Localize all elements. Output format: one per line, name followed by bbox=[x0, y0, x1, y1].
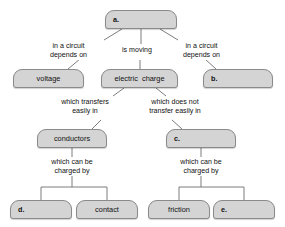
node-label-voltage: voltage bbox=[14, 75, 83, 82]
connector-voltage-stub bbox=[68, 59, 80, 69]
node-label-d: d. bbox=[11, 206, 71, 213]
connector-a-to-b bbox=[160, 29, 178, 40]
node-c[interactable]: c. bbox=[166, 129, 236, 148]
node-conductors[interactable]: conductors bbox=[37, 129, 107, 148]
connector-charge-to-conductors bbox=[113, 88, 124, 96]
label-a-voltage: in a circuit depends on bbox=[41, 42, 96, 60]
node-a[interactable]: a. bbox=[105, 10, 177, 29]
label-a-b: in a circuit depends on bbox=[174, 42, 229, 60]
connector-c-stub bbox=[172, 120, 182, 129]
node-contact[interactable]: contact bbox=[76, 200, 138, 219]
label-charge-conductors: which transfers easily in bbox=[54, 98, 116, 116]
label-conductors-charged: which can be charged by bbox=[43, 158, 101, 176]
node-voltage[interactable]: voltage bbox=[13, 69, 84, 88]
label-a-electric-charge: is moving bbox=[113, 46, 161, 55]
node-label-conductors: conductors bbox=[38, 135, 106, 142]
node-label-friction: friction bbox=[149, 206, 209, 213]
node-label-electric_charge: electric charge bbox=[102, 75, 177, 82]
node-label-c: c. bbox=[167, 135, 235, 142]
connector-a-to-voltage bbox=[104, 29, 122, 40]
concept-map-diagram: a.voltageelectric chargeb.conductorsc.d.… bbox=[0, 0, 285, 227]
node-electric_charge[interactable]: electric charge bbox=[101, 69, 178, 88]
node-friction[interactable]: friction bbox=[148, 200, 210, 219]
node-d[interactable]: d. bbox=[10, 200, 72, 219]
node-label-a: a. bbox=[106, 16, 176, 23]
connector-charge-to-c bbox=[156, 88, 166, 96]
connector-b-stub bbox=[205, 59, 216, 69]
node-e[interactable]: e. bbox=[213, 200, 275, 219]
connector-conductors-stub bbox=[92, 120, 101, 129]
node-b[interactable]: b. bbox=[203, 69, 273, 88]
node-label-e: e. bbox=[214, 206, 274, 213]
label-charge-c: which does not transfer easily in bbox=[139, 98, 211, 116]
node-label-contact: contact bbox=[77, 206, 137, 213]
node-label-b: b. bbox=[204, 75, 272, 82]
label-c-charged: which can be charged by bbox=[172, 158, 230, 176]
